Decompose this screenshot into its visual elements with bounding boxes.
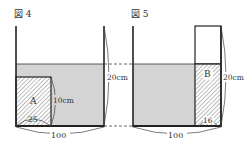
container-height-label: 20cm <box>107 73 128 82</box>
figure-5: 図 5 B 20cm 16 100 <box>131 9 245 140</box>
figure-4-title: 図 4 <box>14 9 32 19</box>
block-a-height-label: 10cm <box>53 96 74 105</box>
block-a-label: A <box>29 96 37 106</box>
block-b-label: B <box>204 69 211 79</box>
figure-4: 図 4 A 10cm 25 20cm 100 <box>14 9 128 140</box>
diagram-canvas: 図 4 A 10cm 25 20cm 100 図 5 <box>0 0 251 150</box>
block-b-above-water <box>195 26 221 64</box>
container-width-label: 100 <box>168 131 183 140</box>
figure-5-title: 図 5 <box>131 9 149 19</box>
block-b-width-label: 16 <box>203 116 213 125</box>
container-height-label: 20cm <box>223 73 244 82</box>
block-a-width-label: 25 <box>28 115 38 124</box>
water-region <box>133 64 195 126</box>
container-width-label: 100 <box>51 131 66 140</box>
